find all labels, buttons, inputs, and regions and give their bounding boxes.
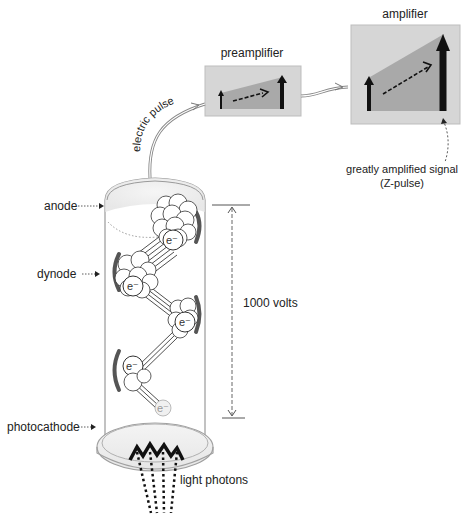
- light-photons-label: light photons: [180, 473, 248, 487]
- pmt-diagram: preamplifier amplifier grea: [0, 0, 464, 527]
- photocathode-label: photocathode: [7, 420, 80, 434]
- anode-callout: anode: [44, 199, 104, 213]
- amplifier-label: amplifier: [382, 7, 427, 21]
- electric-pulse-cable: electric pulse: [130, 94, 205, 178]
- electron-label-1: e⁻: [166, 234, 178, 246]
- electron-label-3: e⁻: [179, 316, 191, 328]
- dynode-label: dynode: [37, 267, 77, 281]
- amplifier-block: amplifier: [351, 7, 460, 124]
- electron-label-2: e⁻: [127, 280, 139, 292]
- preamp-to-amp-cable: [301, 83, 348, 96]
- voltage-dimension: 1000 volts: [212, 205, 298, 418]
- z-pulse-annotation: greatly amplified signal (Z-pulse): [346, 118, 458, 189]
- z-pulse-label-line2: (Z-pulse): [380, 177, 424, 189]
- voltage-label: 1000 volts: [243, 296, 298, 310]
- dynode-callout: dynode: [37, 267, 100, 281]
- electron-label-4: e⁻: [126, 360, 138, 372]
- preamplifier-label: preamplifier: [221, 46, 284, 60]
- anode-label: anode: [44, 199, 78, 213]
- photocathode-callout: photocathode: [7, 420, 96, 434]
- electron-label-5: e⁻: [157, 402, 169, 414]
- z-pulse-label-line1: greatly amplified signal: [346, 163, 458, 175]
- preamplifier-block: preamplifier: [205, 46, 301, 116]
